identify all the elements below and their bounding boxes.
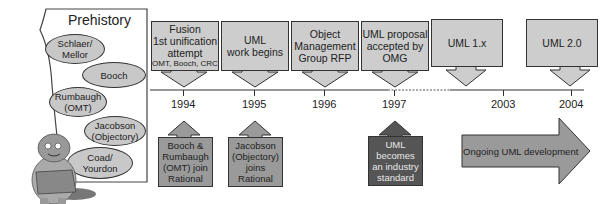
year-label: 1995 — [242, 98, 266, 110]
event-line: Group RFP — [294, 52, 355, 64]
tick-1997 — [394, 90, 395, 96]
event-line: OMG — [363, 52, 428, 64]
event-line: attempt — [152, 47, 218, 59]
event-line: UML proposal — [363, 28, 428, 40]
year-label: 1994 — [171, 98, 195, 110]
event-line: Rational — [162, 173, 208, 184]
event-box-uml-work-begins: UML work begins — [221, 21, 289, 71]
event-line: 1st unification — [152, 35, 218, 47]
year-label: 2004 — [559, 98, 583, 110]
tick-1995 — [254, 90, 255, 96]
event-line: Booch & — [162, 140, 208, 151]
event-line: (OMT) join — [162, 162, 208, 173]
event-box-fusion: Fusion 1st unification attempt OMT, Booc… — [151, 21, 219, 71]
event-subtext: OMT, Booch, CRC — [152, 59, 218, 69]
event-line: joins — [232, 162, 279, 173]
event-box-uml-proposal-accepted: UML proposal accepted by OMG — [361, 21, 429, 71]
event-line: Object — [294, 28, 355, 40]
event-line: Management — [294, 40, 355, 52]
event-box-uml-1x: UML 1.x — [431, 19, 503, 67]
event-box-uml-industry-standard: UML becomes an industry standard — [368, 136, 423, 186]
tick-2004 — [571, 90, 572, 96]
event-line: Rational — [232, 173, 279, 184]
year-label: 2003 — [491, 98, 515, 110]
event-line: UML 1.x — [448, 37, 487, 49]
year-label: 1996 — [312, 98, 336, 110]
event-box-omg-rfp: Object Management Group RFP — [291, 21, 359, 71]
tick-1994 — [183, 90, 184, 96]
event-line: an industry — [372, 161, 418, 172]
event-line: (Objectory) — [232, 151, 279, 162]
event-line: becomes — [372, 150, 418, 161]
event-line: UML — [227, 34, 283, 46]
event-line: accepted by — [363, 40, 428, 52]
event-line: Jacobson — [232, 140, 279, 151]
event-box-uml-2-0: UML 2.0 — [526, 19, 598, 67]
event-line: work begins — [227, 46, 283, 58]
event-line: UML — [372, 139, 418, 150]
event-line: standard — [372, 172, 418, 183]
event-line: Fusion — [152, 23, 218, 35]
event-line: UML 2.0 — [542, 37, 581, 49]
event-line: Rumbaugh — [162, 151, 208, 162]
tick-2003 — [503, 90, 504, 96]
oval-line: Rumbaugh — [55, 91, 101, 102]
ongoing-arrow-label: Ongoing UML development — [463, 146, 563, 157]
event-box-booch-rumbaugh-join: Booch & Rumbaugh (OMT) join Rational — [158, 137, 213, 187]
year-label: 1997 — [382, 98, 406, 110]
tick-1996 — [324, 90, 325, 96]
event-box-jacobson-joins: Jacobson (Objectory) joins Rational — [228, 137, 283, 187]
